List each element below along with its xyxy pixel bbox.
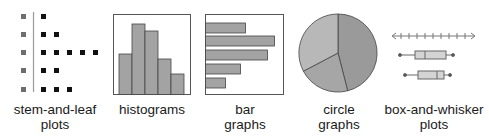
histogram-label: histograms xyxy=(108,102,196,117)
box-whisker-icon xyxy=(390,25,489,85)
pie-chart-icon xyxy=(298,13,380,95)
bar-graph-icon xyxy=(205,14,287,99)
circle-graph-label: circle graphs xyxy=(294,102,384,132)
histogram-icon xyxy=(113,14,193,99)
bar-graph-label: bar graphs xyxy=(200,102,290,132)
box-whisker-label: box-and-whisker plots xyxy=(378,102,489,132)
stem-and-leaf-label: stem-and-leaf plots xyxy=(10,102,100,132)
stem-and-leaf-icon xyxy=(0,0,110,100)
